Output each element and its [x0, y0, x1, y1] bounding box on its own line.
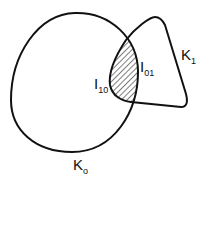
label-k1: K1: [181, 47, 196, 63]
label-k0: Ko: [73, 157, 88, 173]
label-i10: I10: [94, 76, 108, 92]
label-i01: I01: [140, 59, 154, 75]
